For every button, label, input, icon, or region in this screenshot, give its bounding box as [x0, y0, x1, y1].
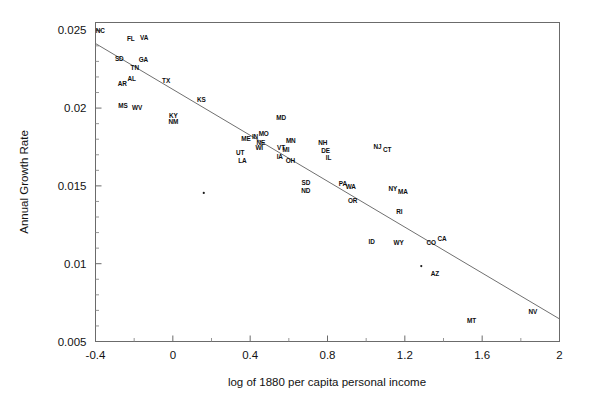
y-tick-label: 0.025: [58, 24, 87, 36]
plot-frame: [96, 23, 560, 342]
data-point-label: AZ: [431, 270, 440, 277]
data-point: WI: [255, 144, 263, 151]
data-point: DE: [321, 147, 331, 154]
data-point: MO: [259, 130, 269, 137]
data-point-label: CT: [383, 146, 392, 153]
data-point-label: ID: [368, 238, 375, 245]
data-point-label: SD: [115, 55, 124, 62]
x-tick-label: 1.2: [397, 349, 413, 361]
data-point-label: MI: [282, 146, 289, 153]
data-point-label: WY: [394, 239, 405, 246]
data-point: UT: [236, 149, 245, 156]
scatter-plot-figure: -0.400.40.81.21.62 0.0050.010.0150.020.0…: [0, 0, 594, 398]
data-point-label: NC: [96, 27, 106, 34]
x-axis-title: log of 1880 per capita personal income: [228, 376, 426, 388]
data-point-label: WI: [255, 144, 263, 151]
data-point: WA: [346, 183, 357, 190]
data-point: MD: [276, 114, 286, 121]
x-tick-label: -0.4: [86, 349, 106, 361]
data-point: GA: [139, 56, 149, 63]
x-tick-label: 0.4: [242, 349, 259, 361]
data-point: AZ: [431, 270, 440, 277]
data-point: NM: [169, 118, 179, 125]
data-point: NH: [318, 139, 328, 146]
data-point: [420, 265, 422, 267]
y-axis-tick-labels: 0.0050.010.0150.020.025: [58, 24, 87, 347]
data-point: TX: [162, 77, 171, 84]
data-point: MS: [118, 102, 128, 109]
data-point-label: MA: [398, 188, 408, 195]
data-point: AR: [118, 80, 128, 87]
y-tick-label: 0.01: [64, 258, 86, 270]
data-point-label: ND: [301, 187, 311, 194]
data-point: WV: [132, 104, 143, 111]
data-point-label: FL: [127, 35, 135, 42]
x-tick-label: 2: [556, 349, 562, 361]
data-point-label: IA: [277, 153, 284, 160]
data-point-label: TX: [162, 77, 171, 84]
data-point-label: WV: [132, 104, 143, 111]
data-point: AL: [127, 75, 136, 82]
data-point-label: LA: [238, 157, 247, 164]
data-point: NC: [96, 27, 106, 34]
data-point-label: SD: [302, 179, 311, 186]
data-point: FL: [127, 35, 135, 42]
data-point: RI: [396, 208, 403, 215]
data-point: NV: [528, 308, 538, 315]
x-tick-label: 0: [170, 349, 176, 361]
data-point-label: VA: [140, 34, 149, 41]
data-point-label: NY: [389, 185, 399, 192]
data-point-label: CA: [437, 235, 447, 242]
data-point: IA: [277, 153, 284, 160]
data-point-label: UT: [236, 149, 245, 156]
data-point-label: MO: [259, 130, 269, 137]
data-point-label: NH: [318, 139, 328, 146]
data-point-label: WA: [346, 183, 357, 190]
data-point: OR: [348, 197, 358, 204]
data-point: KS: [197, 96, 207, 103]
data-point-label: OR: [348, 197, 358, 204]
y-tick-label: 0.005: [58, 336, 87, 348]
data-point: CO: [427, 239, 437, 246]
data-point: TN: [131, 64, 140, 71]
data-point: MT: [467, 317, 476, 324]
data-point-label: ME: [241, 135, 251, 142]
x-axis-tick-labels: -0.400.40.81.21.62: [86, 349, 563, 361]
data-point: ND: [301, 187, 311, 194]
data-point: NJ: [373, 143, 382, 150]
data-point: LA: [238, 157, 247, 164]
x-axis-major-ticks: [96, 336, 560, 342]
data-point: [203, 192, 205, 194]
data-point-label: KS: [197, 96, 207, 103]
data-point-label: NV: [528, 308, 538, 315]
data-point-label: RI: [396, 208, 403, 215]
y-axis-title: Annual Growth Rate: [18, 130, 30, 234]
data-point-label: MD: [276, 114, 286, 121]
data-point-label: DE: [321, 147, 331, 154]
data-point: ID: [368, 238, 375, 245]
data-point: OH: [286, 157, 296, 164]
data-point: CT: [383, 146, 392, 153]
x-tick-label: 1.6: [474, 349, 490, 361]
data-point: MA: [398, 188, 408, 195]
data-point-label: AR: [118, 80, 128, 87]
data-point-label: IL: [326, 154, 332, 161]
data-point: MI: [282, 146, 289, 153]
data-point-label: AL: [127, 75, 136, 82]
y-tick-label: 0.02: [64, 102, 86, 114]
data-point-label: GA: [139, 56, 149, 63]
data-point-label: NJ: [373, 143, 382, 150]
data-point-label: MN: [286, 137, 296, 144]
data-point: WY: [394, 239, 405, 246]
data-point: SD: [302, 179, 311, 186]
data-point-label: TN: [131, 64, 140, 71]
data-point: VA: [140, 34, 149, 41]
data-point: MN: [286, 137, 296, 144]
data-point: NY: [389, 185, 399, 192]
regression-line: [96, 44, 560, 319]
data-point-label: NM: [169, 118, 179, 125]
y-tick-label: 0.015: [58, 180, 87, 192]
data-point-label: MS: [118, 102, 128, 109]
data-point: ME: [241, 135, 251, 142]
data-point-label: OH: [286, 157, 296, 164]
